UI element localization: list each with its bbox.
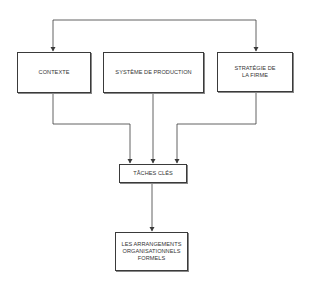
node-label-line1: LES ARRANGEMENTS <box>122 241 182 248</box>
node-systeme-de-production: SYSTÈME DE PRODUCTION <box>103 52 204 93</box>
arrow-down-icon <box>175 159 180 164</box>
edge-strategie-taches <box>175 92 257 164</box>
node-label: CONTEXTE <box>39 69 70 76</box>
node-strategie-de-la-firme: STRATÉGIE DE LA FIRME <box>217 52 293 92</box>
arrow-down-icon <box>151 159 156 164</box>
arrow-down-icon <box>128 159 133 164</box>
node-label-line3: FORMELS <box>138 255 165 262</box>
node-label: TÂCHES CLÉS <box>133 170 172 177</box>
diagram-canvas: CONTEXTE SYSTÈME DE PRODUCTION STRATÉGIE… <box>0 0 312 283</box>
node-label-line2: LA FIRME <box>242 72 268 79</box>
edge-contexte-taches <box>53 93 133 164</box>
node-label-line2: ORGANISATIONNELS <box>123 248 181 255</box>
node-arrangements-organisationnels: LES ARRANGEMENTS ORGANISATIONNELS FORMEL… <box>115 232 188 271</box>
top-connector <box>51 20 259 52</box>
arrow-down-icon <box>254 47 259 52</box>
node-contexte: CONTEXTE <box>17 52 91 93</box>
arrow-down-icon <box>150 227 155 232</box>
edge-taches-arrangements <box>150 183 155 232</box>
node-taches-cles: TÂCHES CLÉS <box>119 164 187 183</box>
node-label-line1: STRATÉGIE DE <box>234 65 275 72</box>
arrow-down-icon <box>51 47 56 52</box>
edge-systeme-taches <box>151 93 156 164</box>
node-label: SYSTÈME DE PRODUCTION <box>115 69 191 76</box>
